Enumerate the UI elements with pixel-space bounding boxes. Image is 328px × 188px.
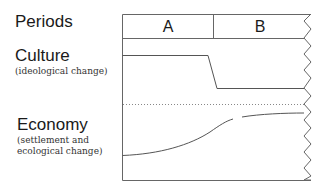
- economy-trend-curve-1: [123, 119, 234, 156]
- economy-trend-curve-2: [242, 113, 304, 117]
- period-a-label: A: [163, 18, 174, 35]
- zigzag-edge: [304, 14, 311, 180]
- diagram-canvas: A B: [0, 0, 328, 188]
- culture-trend-line: [123, 56, 305, 89]
- period-b-label: B: [255, 18, 266, 35]
